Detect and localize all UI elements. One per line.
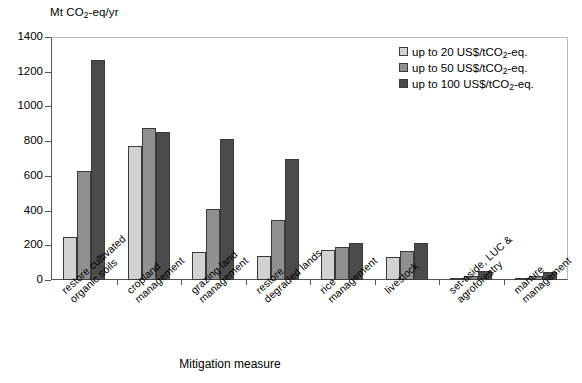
legend-label: up to 50 US$/tCO2-eq. bbox=[412, 62, 527, 74]
y-axis-title-pre: Mt CO bbox=[50, 6, 84, 18]
y-axis-tick-label: 1200 bbox=[3, 66, 43, 77]
legend-label: up to 20 US$/tCO2-eq. bbox=[412, 46, 527, 58]
bar bbox=[128, 146, 142, 280]
y-axis-tick bbox=[45, 176, 51, 177]
y-axis-tick-label: 1000 bbox=[3, 100, 43, 111]
x-axis-tick bbox=[310, 280, 311, 285]
y-axis-tick bbox=[45, 141, 51, 142]
bar-chart: Mt CO2-eq/yr 0200400600800100012001400 r… bbox=[0, 0, 582, 383]
legend-swatch-icon bbox=[399, 63, 408, 72]
x-axis-tick bbox=[246, 280, 247, 285]
bar bbox=[142, 128, 156, 280]
y-axis-title: Mt CO2-eq/yr bbox=[50, 6, 119, 18]
y-axis-title-post: -eq/yr bbox=[89, 6, 119, 18]
y-axis-tick bbox=[45, 245, 51, 246]
y-axis-tick bbox=[45, 280, 51, 281]
y-axis-tick-label: 800 bbox=[3, 135, 43, 146]
y-axis-tick-label: 0 bbox=[3, 274, 43, 285]
y-axis-tick bbox=[45, 211, 51, 212]
bar bbox=[414, 243, 428, 280]
y-axis-tick-label: 200 bbox=[3, 239, 43, 250]
y-axis-tick bbox=[45, 37, 51, 38]
legend-label: up to 100 US$/tCO2-eq. bbox=[412, 78, 534, 90]
y-axis-tick-label: 600 bbox=[3, 170, 43, 181]
x-axis-title: Mitigation measure bbox=[0, 357, 460, 371]
legend-swatch-icon bbox=[399, 79, 408, 88]
x-axis-tick bbox=[439, 280, 440, 285]
x-axis-tick bbox=[375, 280, 376, 285]
legend-item: up to 50 US$/tCO2-eq. bbox=[399, 60, 561, 75]
x-axis-tick bbox=[117, 280, 118, 285]
x-axis-tick bbox=[504, 280, 505, 285]
y-axis-tick-label: 400 bbox=[3, 205, 43, 216]
legend-item: up to 20 US$/tCO2-eq. bbox=[399, 44, 561, 59]
legend-item: up to 100 US$/tCO2-eq. bbox=[399, 76, 561, 91]
y-axis-title-subscript: 2 bbox=[84, 10, 89, 20]
legend-swatch-icon bbox=[399, 47, 408, 56]
y-axis-tick bbox=[45, 106, 51, 107]
y-axis-tick bbox=[45, 72, 51, 73]
y-axis-tick-label: 1400 bbox=[3, 31, 43, 42]
x-axis-tick bbox=[181, 280, 182, 285]
legend: up to 20 US$/tCO2-eq.up to 50 US$/tCO2-e… bbox=[393, 38, 565, 98]
